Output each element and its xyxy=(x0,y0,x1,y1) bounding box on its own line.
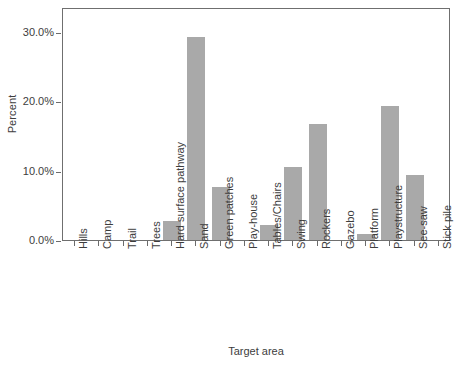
x-tick-label: Stick pile xyxy=(442,205,453,249)
x-tick-mark xyxy=(365,241,366,246)
x-tick-mark xyxy=(98,241,99,246)
y-tick-mark xyxy=(56,241,61,242)
x-tick-label: Camp xyxy=(102,220,113,249)
y-tick-label: 20.0% xyxy=(8,95,54,107)
y-tick-mark xyxy=(56,102,61,103)
x-tick-label: Gazebo xyxy=(345,210,356,249)
x-tick-mark xyxy=(74,241,75,246)
x-tick-mark xyxy=(123,241,124,246)
x-tick-mark xyxy=(438,241,439,246)
x-tick-mark xyxy=(317,241,318,246)
x-tick-mark xyxy=(389,241,390,246)
x-tick-label: Playstructure xyxy=(393,185,404,249)
y-tick-label: 10.0% xyxy=(8,165,54,177)
x-tick-label: Platform xyxy=(369,208,380,249)
x-tick-label: Trees xyxy=(151,221,162,249)
x-tick-mark xyxy=(268,241,269,246)
x-tick-mark xyxy=(244,241,245,246)
y-tick-mark xyxy=(56,172,61,173)
x-axis-title: Target area xyxy=(62,345,450,357)
x-tick-mark xyxy=(341,241,342,246)
x-tick-mark xyxy=(220,241,221,246)
x-tick-label: Rockers xyxy=(321,209,332,249)
x-tick-mark xyxy=(171,241,172,246)
x-tick-label: Green patches xyxy=(224,177,235,249)
x-tick-label: Hills xyxy=(78,228,89,249)
x-tick-label: Trail xyxy=(127,228,138,249)
x-tick-mark xyxy=(147,241,148,246)
bar xyxy=(187,37,205,240)
x-tick-mark xyxy=(292,241,293,246)
x-tick-label: Tables/Chairs xyxy=(272,182,283,249)
bar-chart: Percent 0.0%10.0%20.0%30.0% HillsCampTra… xyxy=(0,0,465,370)
x-tick-label: Play-house xyxy=(248,194,259,249)
x-tick-mark xyxy=(195,241,196,246)
y-tick-label: 30.0% xyxy=(8,26,54,38)
y-tick-label: 0.0% xyxy=(8,234,54,246)
y-axis-tick-labels: 0.0%10.0%20.0%30.0% xyxy=(6,0,54,370)
x-tick-label: Hard surface pathway xyxy=(175,142,186,249)
x-tick-label: See-saw xyxy=(418,206,429,249)
x-tick-label: Swing xyxy=(296,219,307,249)
y-tick-mark xyxy=(56,33,61,34)
x-tick-mark xyxy=(414,241,415,246)
x-tick-label: Sand xyxy=(199,223,210,249)
